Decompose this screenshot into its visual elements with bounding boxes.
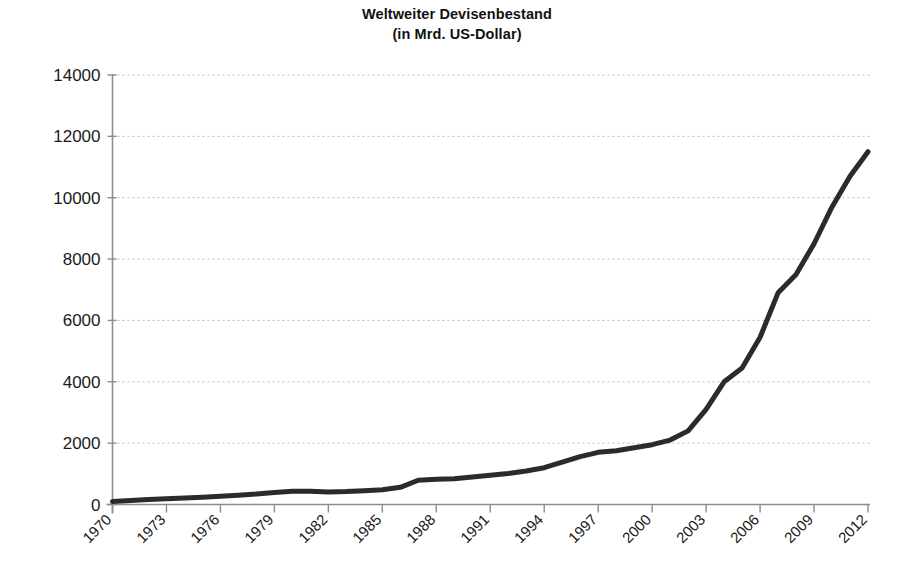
x-tick-label: 2012 (835, 511, 871, 547)
x-tick-label: 1982 (295, 511, 331, 547)
y-tick-label: 0 (91, 496, 100, 515)
y-tick-label: 6000 (63, 311, 101, 330)
y-tick-label: 2000 (63, 434, 101, 453)
series-line (113, 152, 869, 502)
chart-container: Weltweiter Devisenbestand (in Mrd. US-Do… (0, 0, 914, 583)
y-tick-label: 10000 (53, 189, 100, 208)
x-tick-label: 1976 (187, 511, 223, 547)
x-tick-labels: 1970197319761979198219851988199119941997… (79, 511, 870, 547)
x-tick-label: 2006 (727, 511, 763, 547)
chart-title: Weltweiter Devisenbestand (in Mrd. US-Do… (0, 4, 914, 44)
x-tick-label: 2009 (781, 511, 817, 547)
y-tick-labels: 02000400060008000100001200014000 (53, 66, 100, 515)
data-series-devisenbestand (113, 152, 869, 502)
chart-title-line2: (in Mrd. US-Dollar) (0, 24, 914, 44)
x-tick-label: 2003 (673, 511, 709, 547)
y-tick-label: 8000 (63, 250, 101, 269)
x-tick-label: 1991 (457, 511, 493, 547)
x-tick-label: 2000 (619, 511, 655, 547)
y-tick-label: 12000 (53, 127, 100, 146)
x-tick-label: 1994 (511, 511, 547, 547)
chart-title-line1: Weltweiter Devisenbestand (362, 6, 552, 22)
x-tick-label: 1988 (403, 511, 439, 547)
x-tick-label: 1973 (133, 511, 169, 547)
x-tick-label: 1997 (565, 511, 601, 547)
y-axis (108, 74, 117, 514)
line-chart-plot: 02000400060008000100001200014000 1970197… (0, 0, 914, 583)
y-tick-label: 4000 (63, 373, 101, 392)
x-tick-label: 1979 (241, 511, 277, 547)
x-tick-label: 1985 (349, 511, 385, 547)
y-tick-label: 14000 (53, 66, 100, 85)
gridlines-group (113, 75, 871, 443)
x-tick-label: 1970 (79, 511, 115, 547)
x-axis (107, 505, 871, 513)
